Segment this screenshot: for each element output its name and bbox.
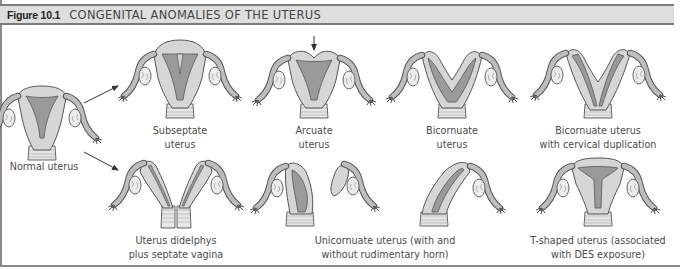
caption-line: uterus (274, 138, 354, 152)
arrow-to-didelphys (84, 152, 118, 170)
subseptate-uterus-drawing (118, 40, 242, 118)
caption-line: uterus (140, 138, 220, 152)
caption-line: Subseptate (140, 124, 220, 138)
bicornuate-cervical-duplication-drawing (530, 50, 666, 118)
caption-line: Unicornuate uterus (with and (310, 234, 460, 248)
caption-t-shaped: T-shaped uterus (associated with DES exp… (528, 234, 668, 262)
normal-uterus-drawing (0, 86, 102, 160)
caption-unicornuate: Unicornuate uterus (with and without rud… (310, 234, 460, 262)
bicornuate-uterus-drawing (386, 52, 518, 118)
caption-line: Normal uterus (4, 160, 84, 174)
caption-line: plus septate vagina (126, 248, 226, 262)
caption-line: Bicornuate (412, 124, 492, 138)
caption-normal: Normal uterus (4, 160, 84, 174)
caption-line: with DES exposure) (528, 248, 668, 262)
caption-bicornuate: Bicornuate uterus (412, 124, 492, 152)
didelphys-drawing (108, 161, 244, 228)
caption-didelphys: Uterus didelphys plus septate vagina (126, 234, 226, 262)
caption-subseptate: Subseptate uterus (140, 124, 220, 152)
caption-line: without rudimentary horn) (310, 248, 460, 262)
caption-arcuate: Arcuate uterus (274, 124, 354, 152)
unicornuate-without-horn-drawing (420, 162, 506, 226)
caption-line: uterus (412, 138, 492, 152)
caption-line: Bicornuate uterus (533, 124, 663, 138)
arrow-to-subseptate (84, 86, 118, 103)
caption-line: Arcuate (274, 124, 354, 138)
caption-bicornuate-cervical: Bicornuate uterus with cervical duplicat… (533, 124, 663, 152)
arcuate-uterus-drawing (252, 36, 376, 118)
unicornuate-with-horn-drawing (250, 163, 380, 226)
caption-line: Uterus didelphys (126, 234, 226, 248)
caption-line: with cervical duplication (533, 138, 663, 152)
caption-line: T-shaped uterus (associated (528, 234, 668, 248)
t-shaped-uterus-drawing (536, 158, 660, 226)
